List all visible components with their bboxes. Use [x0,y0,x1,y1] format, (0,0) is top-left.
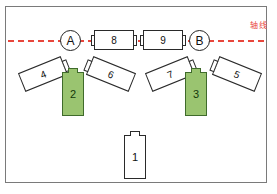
body-9-cap-right-icon [182,35,186,46]
body-9-cap-left-icon [140,35,144,46]
axis-body-8[interactable]: 8 [94,30,134,50]
vertical-body-2-label: 2 [70,88,76,100]
node-a[interactable]: A [60,30,81,51]
axis-body-9-label: 9 [160,35,166,46]
axis-body-8-label: 8 [111,35,117,46]
node-b-label: B [195,34,203,48]
body-1-terminal-icon [130,131,140,136]
vertical-body-1[interactable]: 1 [124,135,146,179]
vertical-body-3-label: 3 [193,88,199,100]
body-3-terminal-icon [191,68,201,73]
vertical-body-3[interactable]: 3 [185,72,207,116]
tilted-body-4-label: 4 [38,68,47,80]
body-2-terminal-icon [68,68,78,73]
axis-line-label: 轴线 [250,19,267,30]
axis-body-9[interactable]: 9 [143,30,183,50]
vertical-body-1-label: 1 [132,151,138,163]
tilted-body-7-label: 7 [165,68,174,80]
vertical-body-2[interactable]: 2 [62,72,84,116]
node-a-label: A [66,34,74,48]
node-b[interactable]: B [189,30,210,51]
body-8-cap-right-icon [133,35,137,46]
layout-diagram: 轴线 A 8 9 B 4 2 6 7 3 [0,0,277,194]
tilted-body-6-label: 6 [106,68,115,80]
body-8-cap-left-icon [91,35,95,46]
tilted-body-5-label: 5 [232,68,241,80]
